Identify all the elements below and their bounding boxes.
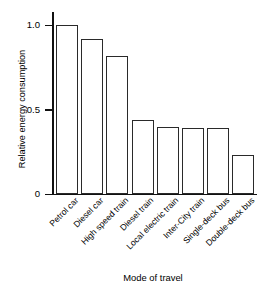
x-axis-title-text: Mode of travel [89, 272, 182, 283]
bar-4 [157, 127, 179, 194]
bar-2 [106, 56, 128, 194]
y-tick-label-1: 1.0 [0, 20, 40, 30]
bar-7 [232, 155, 254, 194]
bar-1 [81, 39, 103, 194]
bar-6 [207, 128, 229, 194]
bar-5 [182, 128, 204, 194]
plot-area [52, 12, 257, 194]
bar-3 [132, 120, 154, 194]
x-tick-label-7: Double-deck bus [204, 196, 256, 248]
bar-0 [56, 25, 78, 194]
y-tick-label-0-5: 0.5 [0, 105, 40, 115]
y-tick-label-0: 0 [0, 189, 40, 199]
x-axis-title: Mode of travel [0, 272, 272, 283]
bar-chart: Relative energy consumption 1.0 0.5 0 Pe… [0, 0, 272, 292]
